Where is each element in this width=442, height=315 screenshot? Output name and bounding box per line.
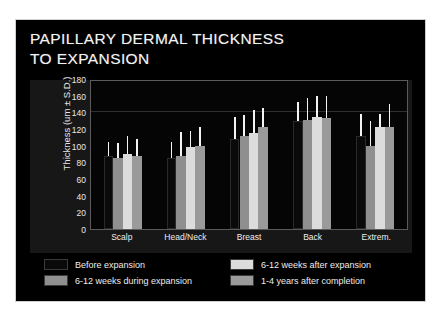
bar [104, 156, 113, 229]
bar-slot [132, 81, 141, 229]
y-axis-tick-120: 120 [72, 126, 86, 134]
x-axis-tick-breast: Breast [237, 232, 262, 242]
slide-title-block: PAPILLARY DERMAL THICKNESS TO EXPANSION [16, 28, 425, 78]
error-bar [379, 114, 381, 127]
y-axis-tick-0: 0 [81, 226, 86, 234]
legend-label: 1-4 years after completion [261, 276, 365, 286]
bar [186, 147, 195, 229]
error-bar [117, 143, 119, 158]
bar [303, 120, 312, 229]
legend-label: 6-12 weeks during expansion [75, 276, 192, 286]
y-axis-tick-160: 160 [72, 93, 86, 101]
y-axis-tick-20: 20 [77, 209, 86, 217]
y-axis-tick-40: 40 [77, 193, 86, 201]
bar [385, 127, 394, 229]
y-axis-tick-labels: 180160140120100806040200 [46, 80, 88, 233]
bar-slot [303, 81, 312, 229]
bar-group-scalp [91, 81, 154, 229]
bar-slot [293, 81, 302, 229]
bar-slot [113, 81, 122, 229]
legend-item[interactable]: 6-12 weeks after expansion [230, 258, 371, 271]
bar [258, 127, 267, 229]
legend-swatch [230, 275, 254, 286]
legend-item[interactable]: 6-12 weeks during expansion [44, 274, 192, 287]
bar-slot [195, 81, 204, 229]
bar [366, 146, 375, 229]
bar-slot [312, 81, 321, 229]
error-bar [234, 117, 236, 139]
bar-slot [366, 81, 375, 229]
bar-slot [230, 81, 239, 229]
bar-slot [356, 81, 365, 229]
bar [176, 156, 185, 229]
bar [375, 127, 384, 229]
error-bar [389, 104, 391, 127]
x-axis-tick-extrem: Extrem. [362, 232, 391, 242]
bar-slot [385, 81, 394, 229]
chart-legend: Before expansion6-12 weeks during expans… [30, 258, 412, 292]
error-bar [253, 110, 255, 133]
bar-group-breast [217, 81, 280, 229]
bar-slot [167, 81, 176, 229]
error-bar [171, 142, 173, 158]
bar-chart: Thickness (um ± S.D.) 180160140120100806… [30, 80, 412, 253]
x-axis-tick-head-neck: Head/Neck [164, 232, 206, 242]
bar [293, 121, 302, 229]
bar [240, 136, 249, 229]
error-bar [190, 131, 192, 148]
bar-slot [186, 81, 195, 229]
error-bar [326, 96, 328, 119]
error-bar [136, 139, 138, 156]
legend-item[interactable]: Before expansion [44, 258, 145, 271]
slide-frame: PAPILLARY DERMAL THICKNESS TO EXPANSION … [16, 20, 425, 301]
legend-item[interactable]: 1-4 years after completion [230, 274, 365, 287]
x-axis-tick-labels: ScalpHead/NeckBreastBackExtrem. [90, 232, 408, 248]
bar [132, 156, 141, 229]
bar-slot [176, 81, 185, 229]
bar-group-back [281, 81, 344, 229]
bar [312, 117, 321, 229]
error-bar [108, 142, 110, 155]
legend-swatch [44, 259, 68, 270]
bar [123, 154, 132, 229]
bar-group-head-neck [154, 81, 217, 229]
bar-slot [123, 81, 132, 229]
bar [322, 118, 331, 229]
bar-group-extrem [344, 81, 407, 229]
y-axis-tick-80: 80 [77, 159, 86, 167]
error-bar [262, 108, 264, 127]
plot-area [90, 80, 408, 230]
bar-slot [104, 81, 113, 229]
error-bar [127, 136, 129, 154]
legend-swatch [44, 275, 68, 286]
page-title-line-1: PAPILLARY DERMAL THICKNESS [30, 30, 284, 48]
x-axis-tick-scalp: Scalp [111, 232, 132, 242]
bar-slot [258, 81, 267, 229]
bar [230, 139, 239, 229]
error-bar [316, 96, 318, 118]
bar [249, 133, 258, 229]
error-bar [360, 114, 362, 136]
error-bar [199, 127, 201, 146]
legend-swatch [230, 259, 254, 270]
bar [113, 158, 122, 229]
bar-slot [240, 81, 249, 229]
bar [195, 146, 204, 229]
x-axis-tick-back: Back [303, 232, 322, 242]
y-axis-tick-60: 60 [77, 176, 86, 184]
bar-slot [322, 81, 331, 229]
y-axis-tick-180: 180 [72, 76, 86, 84]
bar-slot [375, 81, 384, 229]
bar-slot [249, 81, 258, 229]
bar [167, 158, 176, 229]
error-bar [243, 115, 245, 136]
error-bar [180, 132, 182, 155]
legend-label: Before expansion [75, 260, 145, 270]
error-bar [370, 121, 372, 146]
page-title-line-2: TO EXPANSION [30, 50, 150, 68]
bar [356, 136, 365, 229]
legend-label: 6-12 weeks after expansion [261, 260, 371, 270]
y-axis-tick-100: 100 [72, 143, 86, 151]
error-bar [297, 102, 299, 120]
y-axis-tick-140: 140 [72, 109, 86, 117]
